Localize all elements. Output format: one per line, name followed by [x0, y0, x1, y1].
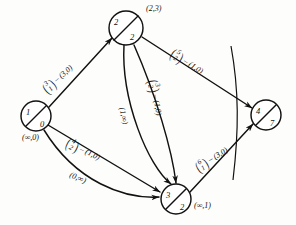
node-n2-tag: (2,3): [146, 4, 161, 13]
edge-index-binomial: (32): [145, 78, 162, 94]
node-n2-upper-value: 2: [114, 17, 118, 27]
edge-flow-capacity: (3,0): [212, 145, 230, 161]
node-n4-upper-value: 4: [256, 106, 260, 116]
node-n2-lower-value: 2: [130, 32, 134, 42]
node-n1-lower-value: 0: [40, 119, 44, 129]
node-n3-tag: (∞,1): [194, 201, 211, 210]
cut-line: [231, 46, 237, 180]
node-n1-tag: (∞,0): [22, 133, 39, 142]
node-n3-lower-value: 2: [180, 202, 184, 212]
node-n1-upper-value: 1: [26, 107, 30, 117]
node-n4-lower-value: 7: [270, 118, 274, 128]
edge-flow-capacity: (1,0): [152, 100, 164, 117]
network-flow-diagram: 1 0 (∞,0) 2 2 (2,3) 3 2 (∞,1) 4 7 (31)–(…: [0, 0, 296, 225]
diagram-canvas: [0, 0, 296, 225]
node-n3-upper-value: 3: [166, 190, 170, 200]
edge-n1-n3-upper-path: [48, 125, 160, 192]
edge-flow-capacity: (1,0): [84, 147, 102, 162]
